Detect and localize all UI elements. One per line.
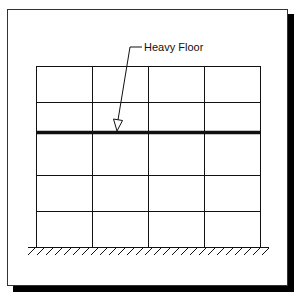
- heavy-floor-label: Heavy Floor: [144, 41, 204, 53]
- diagram-canvas: Heavy Floor: [0, 0, 303, 302]
